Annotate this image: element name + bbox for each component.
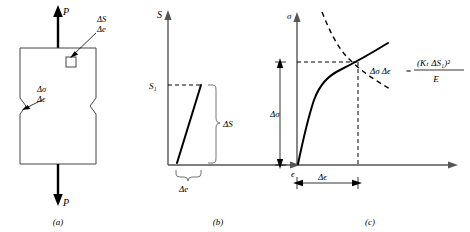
equation-denominator: E <box>432 74 439 84</box>
bottom-load-arrow <box>53 164 63 206</box>
panel-a: P ΔS Δe Δσ Δϵ P (a) <box>0 0 160 232</box>
bottom-arrowhead <box>53 194 63 206</box>
equation-equals: = <box>406 66 411 76</box>
specimen-body <box>20 48 96 164</box>
panel-c: σ Δσ Δϵ <box>270 0 470 232</box>
local-stress-label: Δσ <box>36 84 47 94</box>
delta-epsilon-arrowhead-right <box>352 180 362 186</box>
top-load-label: P <box>62 6 69 17</box>
delta-epsilon-label: Δϵ <box>317 172 327 182</box>
equation-lhs: Δσ Δϵ <box>369 66 391 76</box>
delta-s-label: ΔS <box>222 119 233 129</box>
local-strain-label: Δϵ <box>36 94 46 104</box>
nominal-strain-label: Δe <box>96 24 106 34</box>
panel-c-caption: (c) <box>365 217 375 227</box>
panel-b-caption: (b) <box>213 217 224 227</box>
panel-b-y-axis-label: S <box>157 9 162 20</box>
panel-c-y-axis-label: σ <box>287 11 292 21</box>
panel-a-caption: (a) <box>53 217 64 227</box>
top-load-arrow <box>53 5 63 48</box>
element-square <box>66 57 76 67</box>
panel-c-y-axis <box>293 12 300 165</box>
equation-numerator-text: (Kₜ ΔS₁)² <box>417 58 450 68</box>
nominal-stress-label: ΔS <box>96 14 107 24</box>
panel-b-y-axis <box>164 10 171 165</box>
bottom-load-label: P <box>62 197 69 208</box>
neuber-hyperbola <box>322 12 392 90</box>
panel-c-y-arrowhead <box>293 12 300 22</box>
panel-c-x-axis <box>297 161 458 168</box>
top-arrowhead <box>53 5 63 17</box>
delta-e-label: Δe <box>178 184 188 194</box>
panel-c-x-arrowhead <box>448 161 458 168</box>
delta-e-brace <box>176 170 201 181</box>
equation-numerator-group: (Kₜ ΔS₁)² <box>417 58 450 68</box>
y-axis-arrowhead <box>164 10 171 20</box>
neuber-equation: Δσ Δϵ = (Kₜ ΔS₁)² E <box>369 58 464 84</box>
delta-sigma-arrowhead-bottom <box>277 159 283 169</box>
delta-epsilon-arrow <box>293 177 362 189</box>
delta-sigma-arrowhead-top <box>277 58 283 68</box>
delta-s-brace <box>208 85 220 163</box>
cyclic-stress-strain-curve <box>298 43 388 164</box>
delta-epsilon-arrowhead-left <box>293 180 303 186</box>
nominal-elastic-line <box>177 85 201 163</box>
figure-container: P ΔS Δe Δσ Δϵ P (a) <box>0 0 470 232</box>
s1-tick-label: S₁ <box>149 81 157 91</box>
delta-sigma-label: Δσ <box>269 109 280 119</box>
